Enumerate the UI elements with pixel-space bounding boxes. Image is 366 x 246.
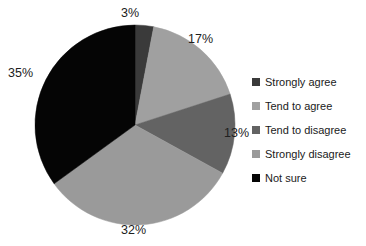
chart-legend: Strongly agree Tend to agree Tend to dis… [252,70,366,190]
slice-value-label-strongly-disagree: 32% [121,223,146,237]
legend-item-tend-to-disagree[interactable]: Tend to disagree [252,118,366,142]
legend-item-strongly-disagree[interactable]: Strongly disagree [252,142,366,166]
legend-swatch-icon [252,102,260,110]
legend-item-label: Strongly disagree [265,149,351,160]
legend-item-label: Tend to agree [265,101,332,112]
legend-item-not-sure[interactable]: Not sure [252,166,366,190]
legend-item-strongly-agree[interactable]: Strongly agree [252,70,366,94]
legend-item-label: Not sure [265,173,307,184]
legend-item-label: Tend to disagree [265,125,346,136]
slice-value-label-tend-to-disagree: 13% [224,126,249,140]
legend-swatch-icon [252,126,260,134]
legend-item-tend-to-agree[interactable]: Tend to agree [252,94,366,118]
legend-item-label: Strongly agree [265,77,337,88]
legend-swatch-icon [252,174,260,182]
slice-value-label-tend-to-agree: 17% [188,32,213,46]
legend-swatch-icon [252,150,260,158]
pie-slices [35,25,235,225]
legend-swatch-icon [252,78,260,86]
slice-value-label-strongly-agree: 3% [121,6,139,20]
slice-value-label-not-sure: 35% [8,66,33,80]
pie-chart: 3% 17% 13% 32% 35% Strongly agree Tend t… [0,0,366,246]
